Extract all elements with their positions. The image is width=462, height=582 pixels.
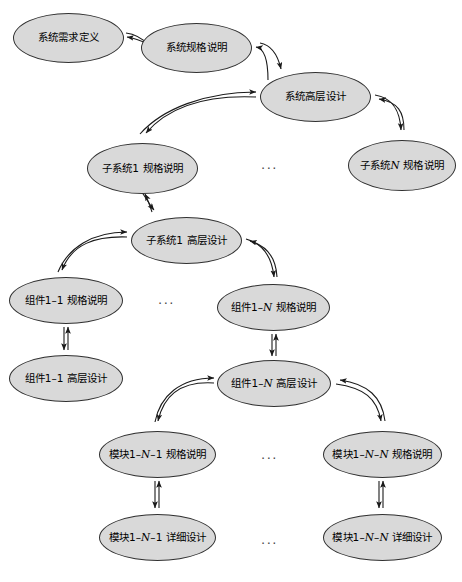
node-label: 模块1–N–1 详细设计 bbox=[105, 532, 211, 544]
node-label: 组件1–N 规格说明 bbox=[227, 302, 320, 314]
node-system-high-level-design[interactable]: 系统高层设计 bbox=[260, 72, 371, 122]
node-component1-N-specification[interactable]: 组件1–N 规格说明 bbox=[217, 284, 330, 331]
edge-n3-n2-a bbox=[256, 47, 268, 80]
edge-n3-n2-b bbox=[260, 43, 281, 69]
ellipsis-marker-subsystems: ... bbox=[261, 158, 278, 171]
node-component1-N-high-level-design[interactable]: 组件1–N 高层设计 bbox=[217, 360, 331, 407]
node-module1-N-1-detailed-design[interactable]: 模块1–N–1 详细设计 bbox=[99, 514, 216, 561]
node-system-requirements-definition[interactable]: 系统需求定义 bbox=[13, 13, 124, 63]
node-label: 组件1–1 高层设计 bbox=[21, 373, 112, 385]
node-module1-N-N-specification[interactable]: 模块1–N–N 规格说明 bbox=[323, 431, 442, 478]
node-label: 组件1–1 规格说明 bbox=[21, 295, 112, 307]
node-subsystemN-specification[interactable]: 子系统N 规格说明 bbox=[348, 140, 456, 191]
node-label: 子系统1 规格说明 bbox=[98, 163, 187, 175]
node-label: 子系统N 规格说明 bbox=[356, 160, 447, 172]
node-label: 系统需求定义 bbox=[34, 32, 103, 44]
edge-n10-n11-b bbox=[155, 378, 214, 422]
node-label: 模块1–N–N 规格说明 bbox=[328, 449, 436, 461]
node-label: 系统规格说明 bbox=[162, 42, 231, 54]
node-subsystem1-specification[interactable]: 子系统1 规格说明 bbox=[87, 143, 198, 194]
node-subsystem1-high-level-design[interactable]: 子系统1 高层设计 bbox=[131, 217, 242, 264]
node-module1-N-1-specification[interactable]: 模块1–N–1 规格说明 bbox=[99, 431, 216, 478]
diagram-canvas: 系统需求定义 系统规格说明 系统高层设计 子系统1 规格说明 子系统N 规格说明… bbox=[0, 0, 462, 582]
node-label: 子系统1 高层设计 bbox=[142, 235, 231, 247]
ellipsis-marker-modules-spec: ... bbox=[261, 448, 278, 461]
node-module1-N-N-detailed-design[interactable]: 模块1–N–N 详细设计 bbox=[323, 514, 442, 561]
edge-n6-n7-a bbox=[62, 237, 127, 270]
ellipsis-marker-modules-detail: ... bbox=[261, 533, 278, 546]
edge-n10-n12-a bbox=[336, 384, 381, 421]
node-label: 系统高层设计 bbox=[281, 91, 350, 103]
ellipsis-marker-components: ... bbox=[158, 293, 175, 306]
node-component1-1-high-level-design[interactable]: 组件1–1 高层设计 bbox=[9, 355, 123, 402]
edge-n10-n11-a bbox=[158, 383, 214, 421]
edge-n6-n7-b bbox=[58, 232, 127, 272]
node-system-specification[interactable]: 系统规格说明 bbox=[141, 23, 252, 73]
node-label: 组件1–N 高层设计 bbox=[227, 378, 320, 390]
node-label: 模块1–N–1 规格说明 bbox=[105, 449, 211, 461]
edge-n3-n4-b bbox=[140, 92, 256, 134]
node-component1-1-specification[interactable]: 组件1–1 规格说明 bbox=[9, 277, 123, 324]
edge-n3-n5-a bbox=[375, 95, 401, 130]
node-label: 模块1–N–N 详细设计 bbox=[328, 532, 436, 544]
